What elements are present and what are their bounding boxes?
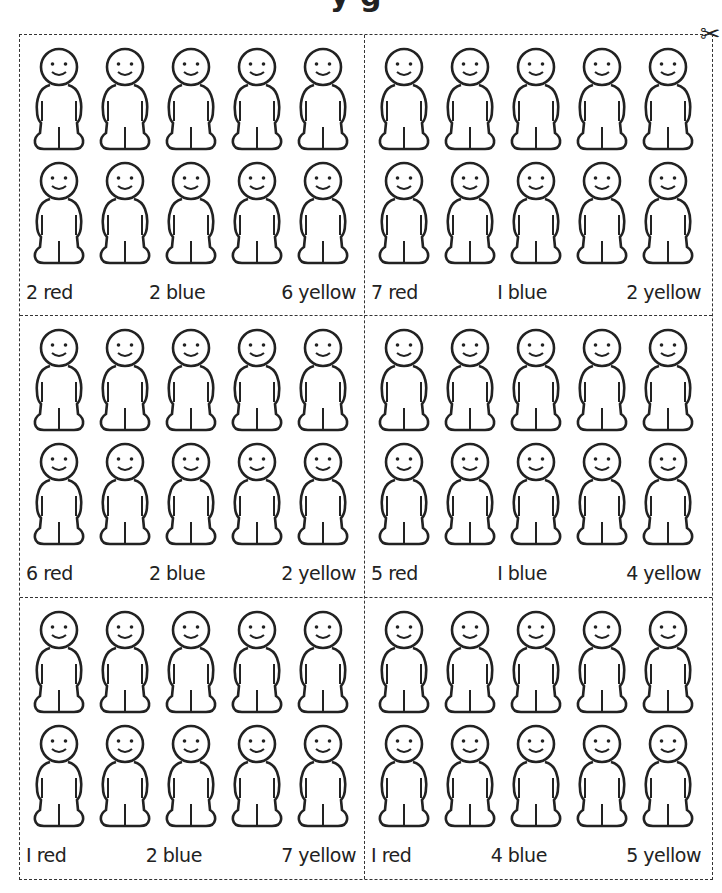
person-figure-icon bbox=[94, 440, 156, 548]
count-yellow: 6 yellow bbox=[281, 281, 356, 303]
person-figure-icon bbox=[571, 326, 633, 434]
person-figure-icon bbox=[28, 326, 90, 434]
count-red: I red bbox=[26, 844, 66, 866]
count-blue: 2 blue bbox=[149, 281, 205, 303]
color-count-labels: 2 red2 blue6 yellow bbox=[26, 281, 356, 303]
count-yellow: 2 yellow bbox=[281, 562, 356, 584]
person-figure-icon bbox=[505, 440, 567, 548]
person-figure-icon bbox=[226, 608, 288, 716]
color-count-labels: 5 redI blue4 yellow bbox=[371, 562, 701, 584]
card-5: I red2 blue7 yellow bbox=[20, 598, 364, 879]
card-2: 7 redI blue2 yellow bbox=[365, 35, 709, 316]
card-6: I red4 blue5 yellow bbox=[365, 598, 709, 879]
person-figure-icon bbox=[439, 440, 501, 548]
person-figure-icon bbox=[28, 159, 90, 267]
person-figure-icon bbox=[94, 608, 156, 716]
person-figure-icon bbox=[637, 608, 699, 716]
person-figure-icon bbox=[94, 159, 156, 267]
person-figure-icon bbox=[160, 440, 222, 548]
figure-grid bbox=[28, 608, 358, 830]
figure-grid bbox=[28, 326, 358, 548]
color-count-labels: 7 redI blue2 yellow bbox=[371, 281, 701, 303]
color-count-labels: 6 red2 blue2 yellow bbox=[26, 562, 356, 584]
person-figure-icon bbox=[292, 722, 354, 830]
count-yellow: 2 yellow bbox=[626, 281, 701, 303]
card-4: 5 redI blue4 yellow bbox=[365, 316, 709, 597]
person-figure-icon bbox=[439, 45, 501, 153]
person-figure-icon bbox=[439, 722, 501, 830]
count-red: 7 red bbox=[371, 281, 418, 303]
person-figure-icon bbox=[94, 722, 156, 830]
person-figure-icon bbox=[28, 608, 90, 716]
person-figure-icon bbox=[571, 722, 633, 830]
person-figure-icon bbox=[226, 722, 288, 830]
count-yellow: 5 yellow bbox=[626, 844, 701, 866]
person-figure-icon bbox=[505, 45, 567, 153]
person-figure-icon bbox=[373, 722, 435, 830]
person-figure-icon bbox=[571, 608, 633, 716]
person-figure-icon bbox=[439, 159, 501, 267]
person-figure-icon bbox=[505, 608, 567, 716]
person-figure-icon bbox=[373, 608, 435, 716]
person-figure-icon bbox=[226, 326, 288, 434]
cut-out-sheet: 2 red2 blue6 yellow bbox=[19, 34, 713, 880]
person-figure-icon bbox=[28, 45, 90, 153]
count-yellow: 4 yellow bbox=[626, 562, 701, 584]
person-figure-icon bbox=[94, 326, 156, 434]
person-figure-icon bbox=[637, 722, 699, 830]
person-figure-icon bbox=[505, 159, 567, 267]
count-red: 2 red bbox=[26, 281, 73, 303]
count-red: I red bbox=[371, 844, 411, 866]
person-figure-icon bbox=[160, 608, 222, 716]
person-figure-icon bbox=[571, 159, 633, 267]
person-figure-icon bbox=[373, 326, 435, 434]
count-blue: 2 blue bbox=[146, 844, 202, 866]
person-figure-icon bbox=[505, 326, 567, 434]
count-blue: I blue bbox=[497, 281, 547, 303]
person-figure-icon bbox=[373, 440, 435, 548]
person-figure-icon bbox=[637, 45, 699, 153]
count-yellow: 7 yellow bbox=[281, 844, 356, 866]
person-figure-icon bbox=[28, 440, 90, 548]
person-figure-icon bbox=[373, 159, 435, 267]
color-count-labels: I red4 blue5 yellow bbox=[371, 844, 701, 866]
person-figure-icon bbox=[637, 159, 699, 267]
figure-grid bbox=[373, 608, 703, 830]
person-figure-icon bbox=[94, 45, 156, 153]
card-1: 2 red2 blue6 yellow bbox=[20, 35, 364, 316]
person-figure-icon bbox=[637, 326, 699, 434]
person-figure-icon bbox=[226, 440, 288, 548]
person-figure-icon bbox=[439, 608, 501, 716]
color-count-labels: I red2 blue7 yellow bbox=[26, 844, 356, 866]
person-figure-icon bbox=[637, 440, 699, 548]
card-3: 6 red2 blue2 yellow bbox=[20, 316, 364, 597]
person-figure-icon bbox=[292, 440, 354, 548]
count-red: 5 red bbox=[371, 562, 418, 584]
count-blue: I blue bbox=[497, 562, 547, 584]
person-figure-icon bbox=[505, 722, 567, 830]
count-blue: 4 blue bbox=[491, 844, 547, 866]
person-figure-icon bbox=[292, 159, 354, 267]
page-title-fragment: y g bbox=[330, 0, 381, 13]
figure-grid bbox=[373, 326, 703, 548]
person-figure-icon bbox=[160, 722, 222, 830]
count-blue: 2 blue bbox=[149, 562, 205, 584]
person-figure-icon bbox=[439, 326, 501, 434]
person-figure-icon bbox=[571, 440, 633, 548]
person-figure-icon bbox=[226, 45, 288, 153]
person-figure-icon bbox=[160, 326, 222, 434]
person-figure-icon bbox=[292, 326, 354, 434]
person-figure-icon bbox=[28, 722, 90, 830]
figure-grid bbox=[28, 45, 358, 267]
person-figure-icon bbox=[292, 608, 354, 716]
figure-grid bbox=[373, 45, 703, 267]
person-figure-icon bbox=[373, 45, 435, 153]
count-red: 6 red bbox=[26, 562, 73, 584]
person-figure-icon bbox=[571, 45, 633, 153]
person-figure-icon bbox=[226, 159, 288, 267]
person-figure-icon bbox=[292, 45, 354, 153]
person-figure-icon bbox=[160, 45, 222, 153]
person-figure-icon bbox=[160, 159, 222, 267]
